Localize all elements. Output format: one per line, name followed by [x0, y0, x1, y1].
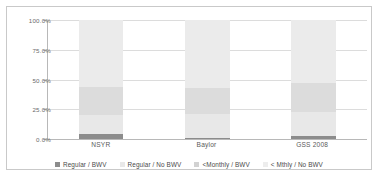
legend-item-label: Regular / No BWV	[128, 161, 182, 168]
x-axis-category-label: NSYR	[48, 141, 154, 148]
bars-container	[48, 20, 367, 139]
bar-group	[154, 20, 260, 139]
legend-item[interactable]: Regular / No BWV	[120, 161, 182, 168]
bar-segment[interactable]	[185, 114, 230, 138]
bar-segment[interactable]	[185, 20, 230, 88]
gridline	[47, 139, 367, 140]
bar-segment[interactable]	[79, 134, 124, 139]
x-axis-category-label: GSS 2008	[259, 141, 365, 148]
y-axis-tick-label: 25.0%	[5, 106, 51, 113]
chart-frame: 0.0%25.0%50.0%75.0%100.0% NSYRBaylorGSS …	[6, 6, 372, 170]
stacked-bar[interactable]	[291, 20, 336, 139]
legend-item[interactable]: < Mthly / No BWV	[263, 161, 323, 168]
stacked-bar[interactable]	[185, 20, 230, 139]
bar-segment[interactable]	[291, 83, 336, 112]
x-axis-category-label: Baylor	[154, 141, 260, 148]
bar-segment[interactable]	[291, 112, 336, 136]
bar-segment[interactable]	[79, 87, 124, 116]
bar-group	[261, 20, 367, 139]
y-axis-tick-label: 75.0%	[5, 46, 51, 53]
legend-item-label: <Monthly / BWV	[202, 161, 249, 168]
legend-swatch-icon	[55, 162, 60, 167]
bar-segment[interactable]	[291, 20, 336, 83]
y-axis-tick-label: 0.0%	[5, 136, 51, 143]
legend-item-label: Regular / BWV	[63, 161, 107, 168]
bar-segment[interactable]	[185, 88, 230, 114]
legend-item[interactable]: Regular / BWV	[55, 161, 107, 168]
legend-item-label: < Mthly / No BWV	[271, 161, 323, 168]
legend-swatch-icon	[194, 162, 199, 167]
bar-segment[interactable]	[79, 20, 124, 87]
plot-area: 0.0%25.0%50.0%75.0%100.0%	[7, 7, 373, 135]
y-axis-tick-label: 50.0%	[5, 76, 51, 83]
x-axis-category-labels: NSYRBaylorGSS 2008	[48, 141, 365, 153]
y-axis-tick-label: 100.0%	[5, 17, 51, 24]
bar-segment[interactable]	[79, 115, 124, 134]
bar-segment[interactable]	[291, 136, 336, 139]
chart-legend: Regular / BWVRegular / No BWV<Monthly / …	[7, 157, 371, 171]
legend-item[interactable]: <Monthly / BWV	[194, 161, 249, 168]
legend-swatch-icon	[263, 162, 268, 167]
stacked-bar[interactable]	[79, 20, 124, 139]
bar-group	[48, 20, 154, 139]
bar-segment[interactable]	[185, 138, 230, 139]
legend-swatch-icon	[120, 162, 125, 167]
